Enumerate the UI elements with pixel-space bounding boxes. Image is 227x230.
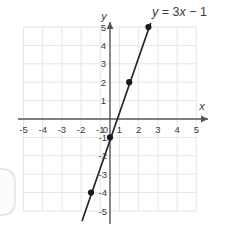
x-tick-label: -4 <box>38 124 46 135</box>
y-tick-label: 1 <box>101 95 106 106</box>
x-tick-label: 3 <box>155 124 160 135</box>
graph-figure: -5 -4 -3 -2 -1 0 1 2 3 4 5 5 4 3 2 1 -1 … <box>0 0 227 230</box>
y-tick-label: 3 <box>101 58 106 69</box>
data-point <box>88 190 94 196</box>
x-tick-label: -5 <box>19 124 27 135</box>
equation-part-equals: = 3 <box>158 5 179 19</box>
y-tick-label: -2 <box>99 150 107 161</box>
data-point <box>107 134 113 140</box>
coordinate-plane-svg: -5 -4 -3 -2 -1 0 1 2 3 4 5 5 4 3 2 1 -1 … <box>0 0 227 230</box>
x-tick-label: 2 <box>136 124 141 135</box>
y-tick-label: -4 <box>99 187 107 198</box>
y-axis <box>107 22 114 224</box>
y-tick-label: -5 <box>99 206 107 217</box>
x-axis <box>18 116 208 123</box>
x-tick-label: 5 <box>194 124 199 135</box>
y-tick-label: 2 <box>101 77 106 88</box>
equation-part-constant: − 1 <box>186 5 207 19</box>
x-tick-label: -2 <box>77 124 85 135</box>
page-edge-artifact <box>0 168 16 216</box>
data-point <box>126 79 132 85</box>
x-tick-label: 1 <box>117 124 122 135</box>
data-point <box>145 24 151 30</box>
x-tick-labels: -5 -4 -3 -2 -1 0 1 2 3 4 5 <box>19 124 199 135</box>
y-tick-label: 5 <box>101 22 106 33</box>
y-tick-label: -3 <box>99 169 107 180</box>
x-tick-label: 4 <box>174 124 179 135</box>
equation-label: y = 3x − 1 <box>151 5 207 19</box>
y-tick-label: -1 <box>99 132 107 143</box>
y-axis-label: y <box>100 10 108 22</box>
x-tick-label: -3 <box>58 124 66 135</box>
y-tick-label: 4 <box>101 40 106 51</box>
x-axis-label: x <box>198 100 205 112</box>
